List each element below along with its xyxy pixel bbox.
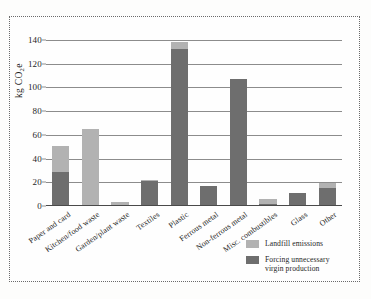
y-axis-tick-label: 80	[33, 107, 42, 116]
legend-item-landfill-emissions: Landfill emissions	[246, 239, 354, 249]
x-axis-baseline	[46, 205, 342, 206]
y-axis-label: kg CO2e	[14, 63, 24, 98]
legend-label-virgin-line1: Forcing unnecessary	[265, 255, 330, 264]
bar-segment-virgin-production	[200, 186, 217, 206]
bar-segment-landfill-emissions	[171, 42, 188, 49]
y-axis-tick-mark	[42, 158, 46, 159]
y-axis-tick-mark	[42, 182, 46, 183]
bar-non-ferrous-metal	[230, 79, 247, 206]
bar-other	[319, 183, 336, 206]
gridline	[46, 64, 342, 65]
y-axis-tick-label: 20	[33, 178, 42, 187]
y-axis-tick-label: 120	[28, 59, 42, 68]
bar-segment-virgin-production	[141, 181, 158, 206]
bar-segment-landfill-emissions	[82, 129, 99, 206]
bar-textiles	[141, 180, 158, 206]
plot-area: 020406080100120140	[46, 34, 342, 206]
gridline	[46, 40, 342, 41]
y-axis-tick-label: 0	[37, 202, 42, 211]
y-axis-tick-mark	[42, 87, 46, 88]
legend-label-virgin: Forcing unnecessary virgin production	[265, 255, 330, 274]
gridline	[46, 111, 342, 112]
bar-ferrous-metal	[200, 186, 217, 206]
bar-segment-virgin-production	[171, 49, 188, 206]
y-axis-label-subscript: 2	[18, 68, 25, 72]
y-axis-tick-mark	[42, 111, 46, 112]
bar-segment-landfill-emissions	[52, 146, 69, 172]
bar-segment-virgin-production	[52, 172, 69, 206]
figure: kg CO2e 020406080100120140 Paper and car…	[0, 0, 371, 299]
chart-legend: Landfill emissions Forcing unnecessary v…	[246, 239, 354, 280]
legend-swatch-icon-landfill	[246, 240, 259, 248]
y-axis-tick-mark	[42, 39, 46, 40]
y-axis-tick-label: 100	[28, 83, 42, 92]
bar-paper-and-card	[52, 146, 69, 206]
y-axis-tick-label: 140	[28, 35, 42, 44]
bar-segment-virgin-production	[319, 188, 336, 206]
y-axis-tick-mark	[42, 134, 46, 135]
y-axis-tick-label: 60	[33, 130, 42, 139]
bar-segment-virgin-production	[230, 79, 247, 206]
legend-label-virgin-line2: virgin production	[265, 264, 320, 273]
bar-plastic	[171, 42, 188, 206]
y-axis-label-prefix: kg CO	[14, 71, 24, 98]
bar-kitchen-food-waste	[82, 129, 99, 206]
legend-item-virgin-production: Forcing unnecessary virgin production	[246, 255, 354, 274]
legend-label-landfill: Landfill emissions	[265, 239, 323, 249]
y-axis-tick-label: 40	[33, 154, 42, 163]
gridline	[46, 87, 342, 88]
y-axis-tick-mark	[42, 63, 46, 64]
legend-swatch-icon-virgin	[246, 256, 259, 264]
